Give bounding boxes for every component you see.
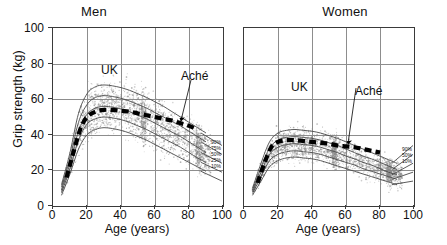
panel-women-title: Women [229, 4, 447, 19]
ytick-mark-20 [48, 169, 52, 170]
ytick-mark-60 [48, 98, 52, 99]
women-xtick-40: 40 [296, 208, 326, 222]
women-legend-10: 10% [402, 159, 412, 165]
grip-strength-figure: Men Grip strength (kg) 100 80 60 40 20 0 [0, 0, 447, 245]
ache-leader-line [181, 80, 191, 120]
ytick-mark-100 [48, 27, 52, 28]
ytick-60: 60 [10, 92, 44, 106]
men-ache-label: Aché [181, 69, 208, 83]
women-xtick-60: 60 [330, 208, 360, 222]
men-xtick-80: 80 [173, 208, 203, 222]
women-plot-area [243, 27, 415, 207]
women-ache-label: Aché [355, 84, 382, 98]
series-uk-75- [62, 96, 207, 188]
ytick-mark-80 [48, 63, 52, 64]
ytick-80: 80 [10, 57, 44, 71]
ytick-40: 40 [10, 128, 44, 142]
men-uk-label: UK [101, 63, 118, 77]
women-x-axis-title: Age (years) [243, 222, 413, 236]
men-x-axis-title: Age (years) [52, 222, 222, 236]
ytick-100: 100 [10, 21, 44, 35]
ytick-20: 20 [10, 163, 44, 177]
women-xtick-100: 100 [398, 208, 428, 222]
men-xtick-60: 60 [139, 208, 169, 222]
men-xtick-40: 40 [105, 208, 135, 222]
scatter-cloud [61, 73, 212, 194]
women-uk-label: UK [291, 80, 308, 94]
men-plot-area [52, 27, 224, 207]
panel-women: Women 0 20 40 60 80 100 Age (years) UK A… [215, 0, 447, 245]
men-xtick-20: 20 [71, 208, 101, 222]
ytick-mark-40 [48, 134, 52, 135]
women-data-layer [244, 28, 414, 206]
women-xtick-0: 0 [228, 208, 258, 222]
panel-men: Men Grip strength (kg) 100 80 60 40 20 0 [0, 0, 232, 245]
women-xtick-20: 20 [262, 208, 292, 222]
men-xtick-0: 0 [37, 208, 67, 222]
scatter-cloud [252, 121, 403, 195]
men-data-layer [53, 28, 223, 206]
panel-men-title: Men [0, 4, 210, 19]
women-xtick-80: 80 [364, 208, 394, 222]
